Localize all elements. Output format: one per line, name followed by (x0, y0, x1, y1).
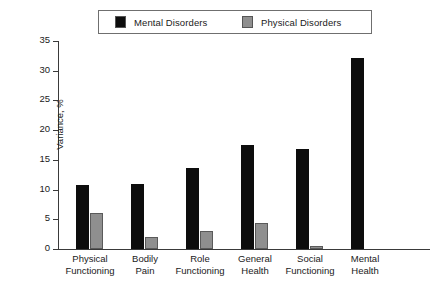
legend-label-mental-disorders: Mental Disorders (134, 17, 207, 28)
y-axis-tick: 35 (53, 41, 58, 42)
bar-mental-disorders (296, 149, 309, 249)
y-axis-tick-label: 15 (39, 153, 50, 164)
bar-mental-disorders (351, 58, 364, 249)
x-axis-category-label: MentalHealth (328, 253, 402, 276)
bar-mental-disorders (241, 145, 254, 249)
y-axis-tick: 30 (53, 71, 58, 72)
bar-group (240, 41, 270, 249)
y-axis-tick: 5 (53, 219, 58, 220)
y-axis-tick: 10 (53, 190, 58, 191)
bar-mental-disorders (186, 168, 199, 249)
bar-group (350, 41, 380, 249)
bar-physical-disorders (310, 246, 323, 249)
x-axis-line (58, 249, 430, 250)
chart-legend: Mental Disorders Physical Disorders (98, 10, 372, 34)
bar-group (75, 41, 105, 249)
bar-physical-disorders (200, 231, 213, 249)
bar-mental-disorders (131, 184, 144, 249)
legend-label-physical-disorders: Physical Disorders (261, 17, 341, 28)
y-axis-tick-label: 35 (39, 34, 50, 45)
bar-group (185, 41, 215, 249)
legend-swatch-physical-disorders (242, 16, 253, 28)
legend-entry-physical-disorders: Physical Disorders (242, 11, 341, 33)
plot-area: Variance, % 35302520151050 PhysicalFunct… (58, 41, 430, 249)
y-axis-tick-label: 30 (39, 64, 50, 75)
legend-swatch-mental-disorders (115, 16, 126, 28)
y-axis-tick-label: 5 (45, 212, 50, 223)
category-label-line: Health (328, 265, 402, 277)
y-axis-title: Variance, % (54, 80, 65, 170)
y-axis-tick-label: 25 (39, 93, 50, 104)
bar-physical-disorders (145, 237, 158, 249)
bar-mental-disorders (76, 185, 89, 249)
y-axis-tick: 20 (53, 130, 58, 131)
y-axis-tick: 0 (53, 249, 58, 250)
bar-physical-disorders (255, 223, 268, 249)
legend-entry-mental-disorders: Mental Disorders (115, 11, 207, 33)
y-axis-tick-label: 0 (45, 242, 50, 253)
bar-chart-figure: Mental Disorders Physical Disorders Vari… (0, 0, 437, 286)
category-label-line: Mental (328, 253, 402, 265)
y-axis-tick: 15 (53, 160, 58, 161)
bar-physical-disorders (90, 213, 103, 249)
bar-group (295, 41, 325, 249)
y-axis-tick-label: 10 (39, 183, 50, 194)
bar-group (130, 41, 160, 249)
y-axis-tick: 25 (53, 100, 58, 101)
y-axis-tick-label: 20 (39, 123, 50, 134)
